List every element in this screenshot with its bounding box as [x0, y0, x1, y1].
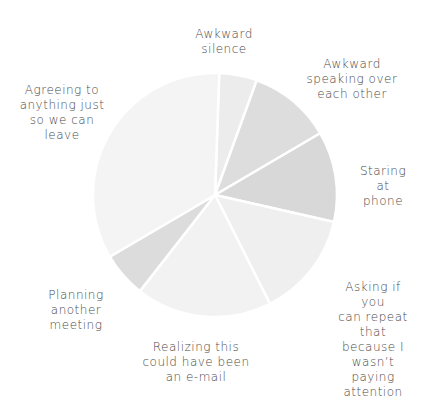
label-asking-to-repeat: Asking if you can repeat that because I … — [338, 280, 408, 400]
label-agreeing-to-leave: Agreeing to anything just so we can leav… — [20, 83, 105, 143]
label-planning-meeting: Planning another meeting — [48, 288, 103, 333]
label-awkward-silence: Awkward silence — [195, 27, 253, 57]
pie-slices — [93, 73, 337, 317]
label-realizing-email: Realizing this could have been an e-mail — [142, 340, 249, 385]
label-staring-at-phone: Staring at phone — [360, 164, 406, 209]
label-awkward-speaking-over: Awkward speaking over each other — [307, 57, 398, 102]
